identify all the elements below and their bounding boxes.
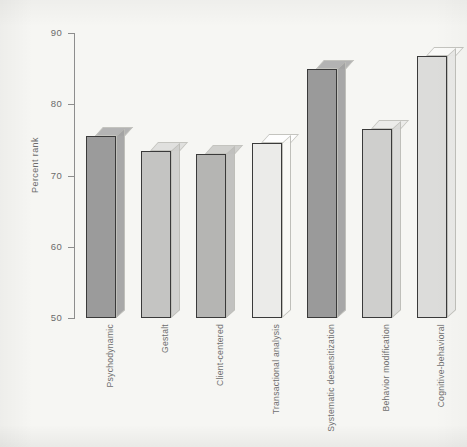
bar-front-face [86, 136, 116, 318]
bar-side-face [282, 135, 291, 318]
category-label: Transactional analysis [271, 324, 281, 414]
bar-top-face [426, 47, 464, 56]
y-tick-label-90: 90 [22, 27, 62, 38]
y-tick-label-70: 70 [22, 170, 62, 181]
bar-top-face [95, 127, 133, 136]
bar-top-face [316, 60, 354, 69]
bar-front-face [141, 151, 171, 318]
bar-top-face [371, 120, 409, 129]
bar [307, 60, 346, 318]
category-label: Systematic desensitization [326, 324, 336, 432]
x-axis-category-labels: PsychodynamicGestaltClient-centeredTrans… [74, 322, 460, 447]
category-label: Gestalt [160, 324, 170, 353]
bar [86, 127, 125, 318]
bar-top-face [205, 145, 243, 154]
bar-side-face [337, 61, 346, 318]
bar-side-face [116, 128, 125, 318]
category-label: Psychodynamic [105, 324, 115, 387]
category-label: Cognitive-behavioral [436, 324, 446, 407]
bar-front-face [252, 143, 282, 318]
bar-side-face [447, 48, 456, 318]
y-tick-label-50: 50 [22, 312, 62, 323]
bar [252, 134, 291, 318]
bar [417, 47, 456, 318]
category-label: Behavior modification [381, 324, 391, 411]
bar-side-face [392, 121, 401, 318]
bar-side-face [226, 146, 235, 318]
y-tick-label-80: 80 [22, 98, 62, 109]
bar [141, 142, 180, 318]
bar-front-face [362, 129, 392, 318]
bar-side-face [171, 142, 180, 318]
y-tick-label-60: 60 [22, 241, 62, 252]
y-tick-50 [68, 318, 75, 319]
category-label: Client-centered [215, 324, 225, 386]
bar-front-face [196, 154, 226, 318]
bar [362, 120, 401, 318]
bar-front-face [417, 56, 447, 318]
bar-chart: Percent rank 5060708090 PsychodynamicGes… [0, 0, 467, 447]
y-axis-title: Percent rank [30, 120, 40, 210]
bar [196, 145, 235, 318]
bar-top-face [261, 134, 299, 143]
bar-front-face [307, 69, 337, 318]
bar-top-face [150, 142, 188, 151]
plot-area [74, 33, 460, 318]
